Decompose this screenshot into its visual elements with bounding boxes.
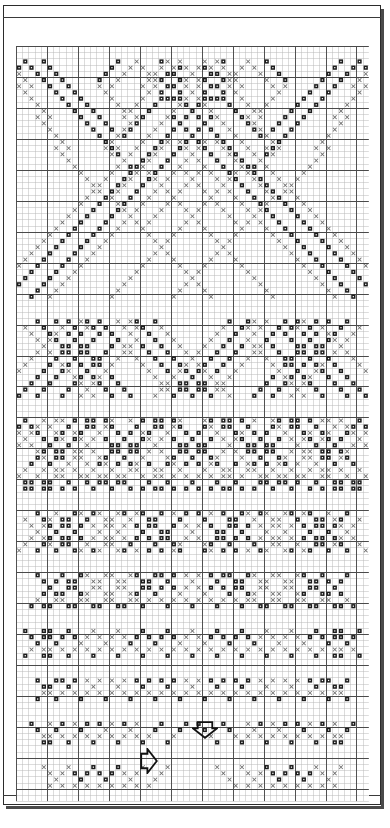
cross-stitch-chart[interactable]	[16, 46, 369, 802]
page-rule-top	[3, 17, 381, 18]
pattern-symbols	[16, 46, 369, 802]
